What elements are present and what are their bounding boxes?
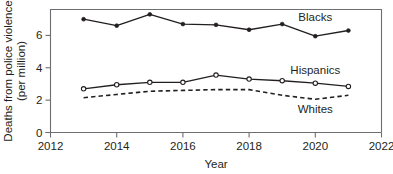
y-tick-label: 0 bbox=[36, 127, 42, 139]
x-axis-title: Year bbox=[204, 158, 227, 170]
x-axis: 201220142016201820202022 bbox=[38, 133, 393, 152]
data-point-hispanics bbox=[313, 81, 317, 85]
series-line-whites bbox=[84, 90, 349, 100]
data-point-blacks bbox=[115, 24, 119, 28]
data-point-blacks bbox=[181, 22, 185, 26]
data-point-blacks bbox=[148, 12, 152, 16]
x-tick-label: 2016 bbox=[170, 140, 196, 152]
series-layer bbox=[81, 12, 350, 99]
data-point-hispanics bbox=[346, 84, 350, 88]
x-tick-label: 2020 bbox=[303, 140, 329, 152]
y-axis: 0246 bbox=[36, 29, 50, 138]
police-violence-deaths-line-chart: 0246 201220142016201820202022 BlacksHisp… bbox=[0, 0, 393, 174]
data-point-blacks bbox=[214, 23, 218, 27]
data-point-hispanics bbox=[115, 83, 119, 87]
y-tick-label: 6 bbox=[36, 29, 42, 41]
data-point-hispanics bbox=[81, 87, 85, 91]
data-point-blacks bbox=[313, 34, 317, 38]
y-axis-title-line2: (per million) bbox=[15, 41, 27, 101]
x-tick-label: 2022 bbox=[369, 140, 393, 152]
data-point-hispanics bbox=[181, 80, 185, 84]
x-tick-label: 2014 bbox=[104, 140, 130, 152]
data-point-blacks bbox=[82, 17, 86, 21]
data-point-hispanics bbox=[148, 80, 152, 84]
y-tick-label: 4 bbox=[36, 62, 43, 74]
data-point-blacks bbox=[347, 29, 351, 33]
x-tick-label: 2012 bbox=[38, 140, 64, 152]
data-point-blacks bbox=[247, 28, 251, 32]
series-label-whites: Whites bbox=[298, 103, 333, 115]
series-label-blacks: Blacks bbox=[298, 11, 332, 23]
x-tick-label: 2018 bbox=[236, 140, 262, 152]
data-point-blacks bbox=[280, 22, 284, 26]
data-point-hispanics bbox=[214, 73, 218, 77]
y-axis-title-line1: Deaths from police violence bbox=[2, 0, 14, 141]
data-point-hispanics bbox=[247, 77, 251, 81]
data-point-hispanics bbox=[280, 79, 284, 83]
series-label-hispanics: Hispanics bbox=[290, 64, 340, 76]
figure-container: 0246 201220142016201820202022 BlacksHisp… bbox=[0, 0, 393, 174]
y-tick-label: 2 bbox=[36, 94, 42, 106]
